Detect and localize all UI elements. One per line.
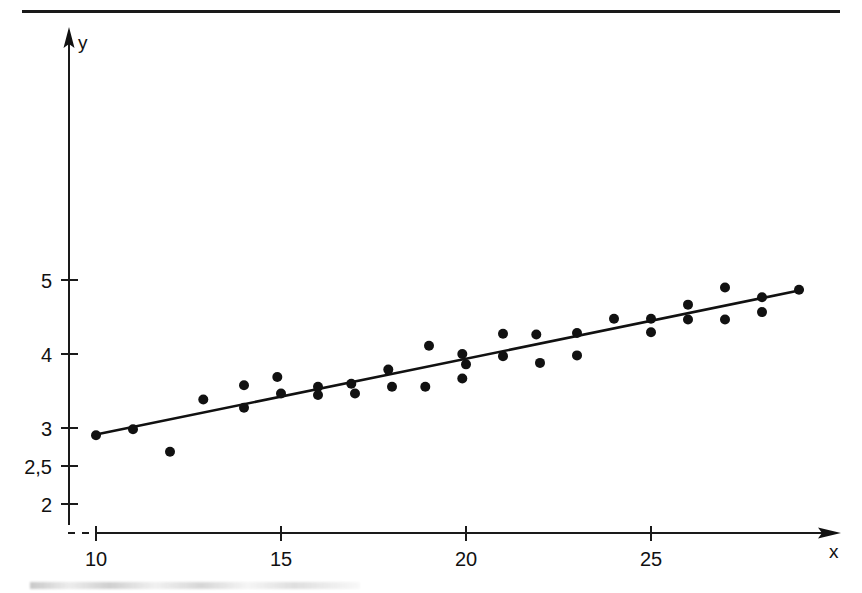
data-point bbox=[757, 292, 767, 302]
y-tick-label-3: 3 bbox=[41, 418, 52, 440]
data-point bbox=[720, 315, 730, 325]
data-point bbox=[387, 382, 397, 392]
x-tick-label-10: 10 bbox=[85, 548, 107, 570]
data-point bbox=[683, 300, 693, 310]
y-axis-tick-labels: 5 4 3 2,5 2 bbox=[24, 270, 52, 516]
data-point bbox=[646, 327, 656, 337]
x-tick-label-25: 25 bbox=[640, 548, 662, 570]
data-point bbox=[165, 447, 175, 457]
data-point bbox=[350, 388, 360, 398]
data-point bbox=[572, 328, 582, 338]
data-point bbox=[239, 380, 249, 390]
y-axis-label: y bbox=[78, 32, 88, 53]
data-point bbox=[91, 430, 101, 440]
data-point-group bbox=[91, 282, 804, 456]
axis-break-dash bbox=[69, 518, 96, 533]
data-point bbox=[239, 403, 249, 413]
axis-break-indicator bbox=[69, 518, 96, 533]
data-point bbox=[346, 379, 356, 389]
data-point bbox=[720, 282, 730, 292]
y-tick-label-2-5: 2,5 bbox=[24, 456, 52, 478]
data-point bbox=[276, 388, 286, 398]
x-tick-label-15: 15 bbox=[270, 548, 292, 570]
data-point bbox=[457, 374, 467, 384]
y-tick-label-5: 5 bbox=[41, 270, 52, 292]
data-point bbox=[572, 350, 582, 360]
data-point bbox=[383, 365, 393, 375]
data-point bbox=[531, 330, 541, 340]
y-tick-label-2: 2 bbox=[41, 494, 52, 516]
regression-line bbox=[96, 290, 803, 435]
data-point bbox=[609, 314, 619, 324]
data-point bbox=[198, 394, 208, 404]
x-axis-label: x bbox=[829, 541, 839, 562]
data-point bbox=[498, 329, 508, 339]
page-edge-artifact bbox=[30, 582, 360, 589]
data-point bbox=[757, 307, 767, 317]
x-axis-tick-labels: 10 15 20 25 bbox=[85, 548, 662, 570]
data-point bbox=[794, 285, 804, 295]
data-point bbox=[424, 341, 434, 351]
data-point bbox=[313, 390, 323, 400]
data-point bbox=[498, 351, 508, 361]
data-point bbox=[683, 315, 693, 325]
figure-root: y x 5 4 3 2,5 2 bbox=[0, 0, 862, 593]
data-point bbox=[272, 372, 282, 382]
data-point bbox=[128, 424, 138, 434]
y-tick-label-4: 4 bbox=[41, 344, 52, 366]
data-point bbox=[457, 349, 467, 359]
data-point bbox=[646, 314, 656, 324]
data-point bbox=[461, 359, 471, 369]
scatter-plot: y x 5 4 3 2,5 2 bbox=[0, 0, 862, 593]
data-point bbox=[535, 358, 545, 368]
data-point bbox=[420, 382, 430, 392]
regression-line-group bbox=[96, 290, 803, 435]
y-axis: y bbox=[64, 27, 89, 518]
x-tick-label-20: 20 bbox=[455, 548, 477, 570]
